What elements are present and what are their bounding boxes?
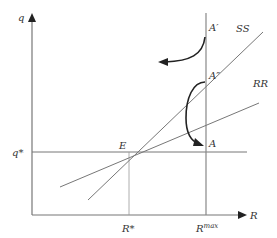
point-a-label: A	[208, 138, 216, 149]
x-axis-label: R	[249, 210, 258, 221]
y-axis-arrow-icon	[28, 13, 36, 22]
rr-curve	[60, 103, 259, 187]
ss-label: SS	[236, 23, 250, 34]
y-axis-label: q	[18, 12, 24, 23]
r-max-superscript: max	[204, 222, 219, 230]
q-star-label: q*	[12, 147, 23, 158]
r-star-label: R*	[121, 223, 135, 234]
arrow-a-double-prime-to-a	[186, 82, 205, 144]
arrow-a-prime-head-icon	[158, 58, 168, 66]
point-e-label: E	[118, 140, 127, 151]
rr-label: RR	[252, 78, 269, 89]
r-max-label: Rmax	[195, 222, 218, 234]
ss-curve	[88, 32, 263, 200]
arrow-a-prime-left	[165, 37, 205, 62]
x-axis-arrow-icon	[238, 211, 247, 219]
point-a-prime-label: A′	[208, 22, 219, 33]
diagram-canvas: q R q* SS RR E A A′ A″ R* Rmax	[0, 0, 277, 238]
arrow-a-head-icon	[193, 138, 204, 146]
point-a-double-prime-label: A″	[208, 70, 220, 81]
